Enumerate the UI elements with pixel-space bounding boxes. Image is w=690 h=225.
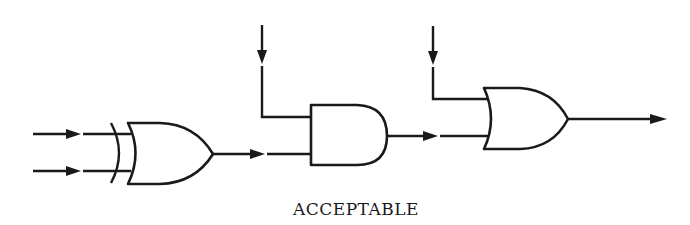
and-input-vertical-wire (257, 25, 311, 117)
and-gate-body (311, 105, 387, 165)
xor-gate-body (128, 123, 213, 184)
or-gate (484, 88, 568, 149)
logic-gate-diagram (0, 0, 690, 225)
arrow-right-icon (250, 149, 265, 159)
final-output-wire (568, 114, 667, 124)
arrow-right-icon (66, 129, 81, 139)
or-gate-body (484, 88, 568, 149)
xor-output-wire (213, 149, 311, 159)
arrow-right-icon (66, 166, 81, 176)
and-output-wire (387, 131, 488, 141)
arrow-down-icon (257, 50, 267, 64)
arrow-right-icon (650, 114, 667, 124)
and-gate (311, 105, 387, 165)
arrow-down-icon (428, 51, 438, 65)
or-input-vertical-wire (428, 26, 488, 99)
xor-extra-arc (111, 123, 119, 183)
arrow-right-icon (423, 131, 438, 141)
xor-gate (111, 123, 213, 184)
diagram-caption: ACCEPTABLE (0, 199, 690, 219)
